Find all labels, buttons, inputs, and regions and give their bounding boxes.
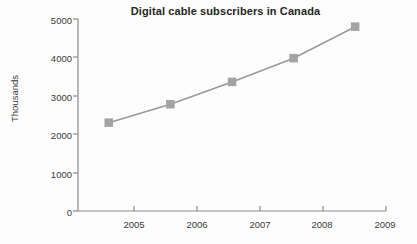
x-axis-ticks	[134, 206, 386, 211]
plot-area	[0, 0, 417, 244]
data-point-marker	[228, 78, 237, 87]
data-line	[109, 27, 355, 123]
chart-container: Digital cable subscribers in Canada Thou…	[0, 0, 417, 244]
data-point-marker	[351, 22, 360, 31]
data-point-marker	[166, 100, 175, 109]
data-point-marker	[105, 118, 114, 127]
data-point-marker	[289, 54, 298, 63]
y-axis-ticks	[73, 19, 78, 211]
data-markers	[105, 22, 360, 127]
